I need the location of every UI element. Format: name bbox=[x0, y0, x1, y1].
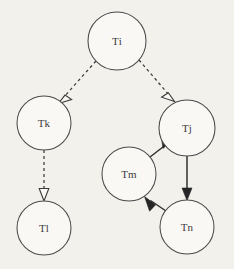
edge-tn-to-tm bbox=[145, 197, 167, 212]
node-tl-label: Tl bbox=[39, 222, 49, 234]
node-ti[interactable]: Ti bbox=[88, 12, 146, 70]
edge-tn-to-tm-arrowhead bbox=[145, 197, 156, 212]
node-ti-label: Ti bbox=[112, 35, 122, 47]
node-tj[interactable]: Tj bbox=[159, 100, 215, 156]
diagram-canvas: Ti Tk Tj Tm Tl Tn bbox=[0, 0, 234, 269]
edge-ti-to-tj bbox=[139, 60, 175, 102]
node-tm[interactable]: Tm bbox=[102, 147, 156, 201]
transaction-dependency-graph: Ti Tk Tj Tm Tl Tn bbox=[0, 0, 234, 269]
node-tj-label: Tj bbox=[182, 122, 192, 134]
edge-ti-to-tk-line bbox=[64, 61, 97, 98]
node-layer: Ti Tk Tj Tm Tl Tn bbox=[17, 12, 215, 255]
edge-ti-to-tk bbox=[59, 61, 97, 104]
node-tn[interactable]: Tn bbox=[160, 200, 214, 254]
edge-tk-to-tl-arrowhead bbox=[39, 189, 49, 202]
node-tm-label: Tm bbox=[121, 168, 137, 180]
node-tl[interactable]: Tl bbox=[17, 201, 71, 255]
edge-tk-to-tl bbox=[39, 150, 49, 201]
edge-tj-to-tn bbox=[182, 156, 192, 201]
node-tk[interactable]: Tk bbox=[17, 96, 71, 150]
edge-ti-to-tj-arrowhead bbox=[162, 93, 175, 102]
edge-ti-to-tj-line bbox=[139, 60, 170, 96]
node-tk-label: Tk bbox=[38, 117, 51, 129]
edge-tj-to-tn-arrowhead bbox=[182, 188, 192, 201]
node-tn-label: Tn bbox=[181, 221, 194, 233]
